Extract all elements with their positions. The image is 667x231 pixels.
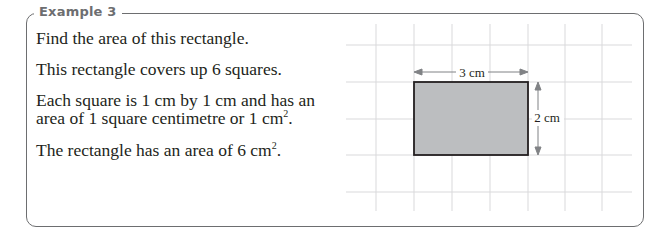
shaded-rectangle	[414, 82, 528, 155]
width-label: 3 cm	[459, 65, 485, 80]
height-label: 2 cm	[534, 110, 560, 125]
rectangle-diagram: 3 cm 2 cm	[0, 0, 667, 231]
